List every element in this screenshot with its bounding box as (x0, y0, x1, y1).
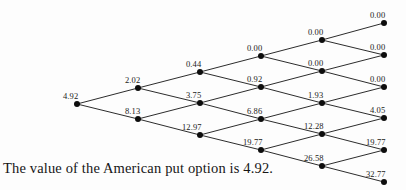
tree-edge (322, 55, 384, 71)
tree-node[interactable] (319, 100, 325, 106)
tree-edge (322, 150, 384, 166)
tree-edge (261, 40, 322, 56)
tree-edge (261, 134, 322, 150)
tree-edge (322, 23, 384, 40)
tree-node[interactable] (381, 147, 387, 153)
tree-node-value: 12.28 (304, 122, 324, 131)
tree-node[interactable] (135, 85, 141, 91)
tree-node-value: 3.75 (186, 91, 201, 100)
tree-node-value: 19.77 (366, 138, 386, 147)
tree-node-value: 0.92 (247, 75, 262, 84)
tree-node-value: 0.00 (308, 28, 323, 37)
tree-node-value: 0.00 (370, 11, 385, 20)
binomial-tree-figure: 4.922.028.130.443.7512.970.000.926.8619.… (0, 0, 406, 190)
tree-node[interactable] (197, 69, 203, 75)
tree-node[interactable] (135, 116, 141, 122)
tree-node[interactable] (258, 147, 264, 153)
tree-node-value: 0.00 (247, 44, 262, 53)
tree-edge (261, 71, 322, 87)
tree-node-value: 4.92 (63, 92, 78, 101)
tree-node-value: 0.44 (186, 60, 201, 69)
tree-edge (200, 87, 261, 103)
tree-node[interactable] (381, 179, 387, 185)
tree-edge (322, 87, 384, 103)
tree-node[interactable] (381, 20, 387, 26)
tree-node-value: 0.00 (370, 43, 385, 52)
tree-node-value: 12.97 (182, 123, 202, 132)
tree-edge (261, 103, 322, 119)
tree-node[interactable] (258, 53, 264, 59)
tree-edges (77, 23, 384, 182)
tree-node[interactable] (258, 84, 264, 90)
tree-node-value: 8.13 (125, 107, 140, 116)
tree-edge (200, 119, 261, 135)
tree-edge (200, 56, 261, 72)
tree-node[interactable] (319, 163, 325, 169)
tree-node[interactable] (319, 131, 325, 137)
tree-node-value: 1.93 (308, 91, 323, 100)
tree-node[interactable] (381, 84, 387, 90)
tree-node[interactable] (319, 37, 325, 43)
tree-edge (138, 72, 200, 88)
tree-node-value: 0.00 (308, 59, 323, 68)
tree-node-value: 4.05 (370, 106, 385, 115)
tree-node[interactable] (197, 100, 203, 106)
tree-node[interactable] (197, 132, 203, 138)
tree-edge (322, 118, 384, 134)
tree-node-value: 19.77 (243, 138, 263, 147)
tree-node-value: 32.77 (366, 170, 386, 179)
tree-node-value: 2.02 (125, 76, 140, 85)
figure-caption: The value of the American put option is … (3, 160, 273, 177)
tree-node-value: 6.86 (247, 107, 262, 116)
tree-node[interactable] (381, 52, 387, 58)
tree-node[interactable] (381, 115, 387, 121)
tree-node-value: 26.58 (304, 154, 324, 163)
tree-node-value: 0.00 (370, 75, 385, 84)
tree-edge (138, 103, 200, 119)
tree-edge (77, 88, 138, 104)
tree-node[interactable] (258, 116, 264, 122)
tree-node[interactable] (319, 68, 325, 74)
tree-node[interactable] (74, 101, 80, 107)
